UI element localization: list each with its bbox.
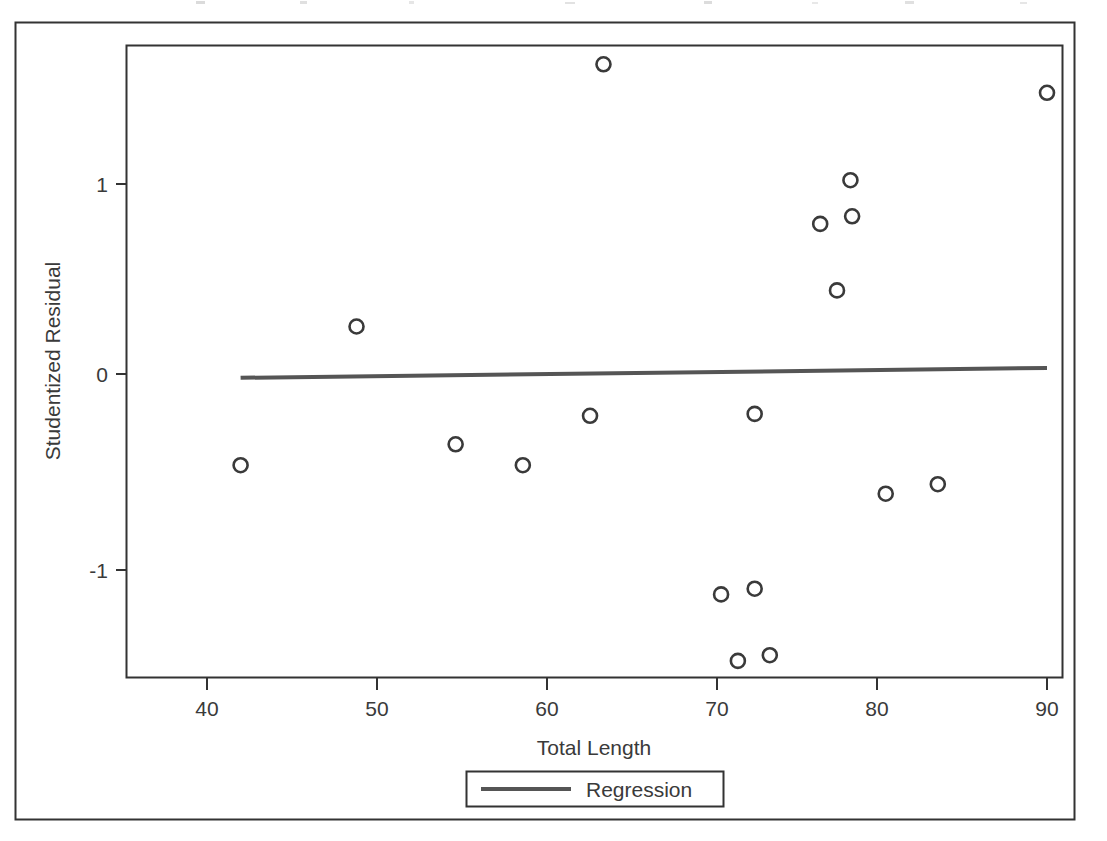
- scatter-point: [583, 409, 597, 423]
- x-axis-tick-labels: 40 50 60 70 80 90: [195, 697, 1058, 720]
- y-axis-title: Studentized Residual: [41, 262, 64, 460]
- scatter-point: [879, 487, 893, 501]
- scatter-point: [748, 407, 762, 421]
- legend: Regression: [467, 772, 724, 807]
- scatter-point: [449, 437, 463, 451]
- scatter-point: [596, 57, 610, 71]
- scatter-point: [843, 173, 857, 187]
- y-axis-ticks: [116, 184, 126, 570]
- scatter-point: [516, 458, 530, 472]
- legend-label-regression: Regression: [586, 778, 692, 801]
- scatter-marker-group: [234, 57, 1054, 668]
- x-tick-label-50: 50: [365, 697, 388, 720]
- x-axis-ticks: [207, 678, 1047, 690]
- scatter-point: [1040, 86, 1054, 100]
- y-tick-label-neg1: -1: [89, 559, 108, 582]
- x-tick-label-80: 80: [865, 697, 888, 720]
- scatter-point: [931, 477, 945, 491]
- y-tick-label-0: 0: [96, 363, 108, 386]
- scatter-point: [748, 582, 762, 596]
- x-axis-title: Total Length: [537, 736, 651, 759]
- scatter-point: [813, 217, 827, 231]
- scatter-point: [830, 283, 844, 297]
- scatter-point: [731, 654, 745, 668]
- scatter-point: [350, 320, 364, 334]
- x-tick-label-90: 90: [1035, 697, 1058, 720]
- x-tick-label-70: 70: [705, 697, 728, 720]
- x-tick-label-60: 60: [535, 697, 558, 720]
- scatter-point: [714, 587, 728, 601]
- scatter-point: [845, 209, 859, 223]
- scatter-point: [763, 648, 777, 662]
- y-axis-tick-labels: 1 0 -1: [89, 173, 108, 582]
- plot-axes-frame: [127, 46, 1063, 678]
- scatter-plot-figure: 1 0 -1 Studentized Residual 40 50 60 70 …: [0, 0, 1107, 841]
- y-tick-label-1: 1: [96, 173, 108, 196]
- x-tick-label-40: 40: [195, 697, 218, 720]
- regression-line: [241, 368, 1047, 378]
- figure-page: 1 0 -1 Studentized Residual 40 50 60 70 …: [0, 0, 1107, 841]
- scatter-point: [234, 458, 248, 472]
